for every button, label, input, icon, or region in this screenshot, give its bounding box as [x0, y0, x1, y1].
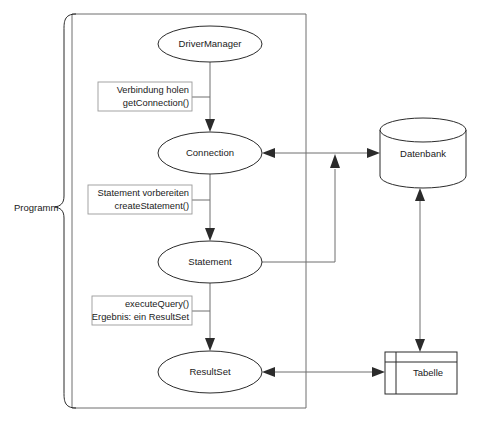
diagram-canvas: Programm Verbindung holen getConnection(…: [0, 0, 477, 422]
node-statement[interactable]: Statement: [158, 241, 262, 283]
edge-label-get-connection: Verbindung holen getConnection(): [98, 82, 210, 111]
edge-connection-statement: [205, 174, 215, 241]
edge-connection-datenbank: [262, 148, 380, 158]
edge-datenbank-tabelle: [415, 188, 425, 352]
edge-label-create-statement-line1: Statement vorbereiten: [98, 188, 189, 198]
edge-label-create-statement: Statement vorbereiten createStatement(): [88, 185, 210, 214]
edge-statement-resultset: [205, 283, 215, 351]
node-drivermanager[interactable]: DriverManager: [158, 26, 262, 62]
node-resultset-label: ResultSet: [189, 366, 231, 377]
node-connection-label: Connection: [186, 147, 234, 158]
node-tabelle-label: Tabelle: [413, 367, 443, 378]
node-datenbank[interactable]: Datenbank: [380, 118, 466, 188]
edge-label-get-connection-line2: getConnection(): [123, 98, 189, 108]
node-statement-label: Statement: [188, 256, 232, 267]
node-datenbank-label: Datenbank: [400, 148, 446, 159]
node-connection[interactable]: Connection: [158, 132, 262, 174]
edge-label-execute-query-line2: Ergebnis: ein ResultSet: [92, 312, 190, 322]
edge-resultset-tabelle: [262, 367, 385, 377]
edge-label-execute-query: executeQuery() Ergebnis: ein ResultSet: [92, 296, 210, 325]
edge-label-create-statement-line2: createStatement(): [115, 201, 189, 211]
edge-label-execute-query-line1: executeQuery(): [125, 299, 189, 309]
node-resultset[interactable]: ResultSet: [158, 351, 262, 393]
edge-label-get-connection-line1: Verbindung holen: [117, 85, 189, 95]
programm-label: Programm: [14, 202, 58, 213]
node-tabelle[interactable]: Tabelle: [385, 352, 457, 394]
jdbc-flow-diagram: Programm Verbindung holen getConnection(…: [0, 0, 477, 422]
node-drivermanager-label: DriverManager: [179, 38, 242, 49]
edge-statement-to-db-link: [262, 154, 340, 262]
